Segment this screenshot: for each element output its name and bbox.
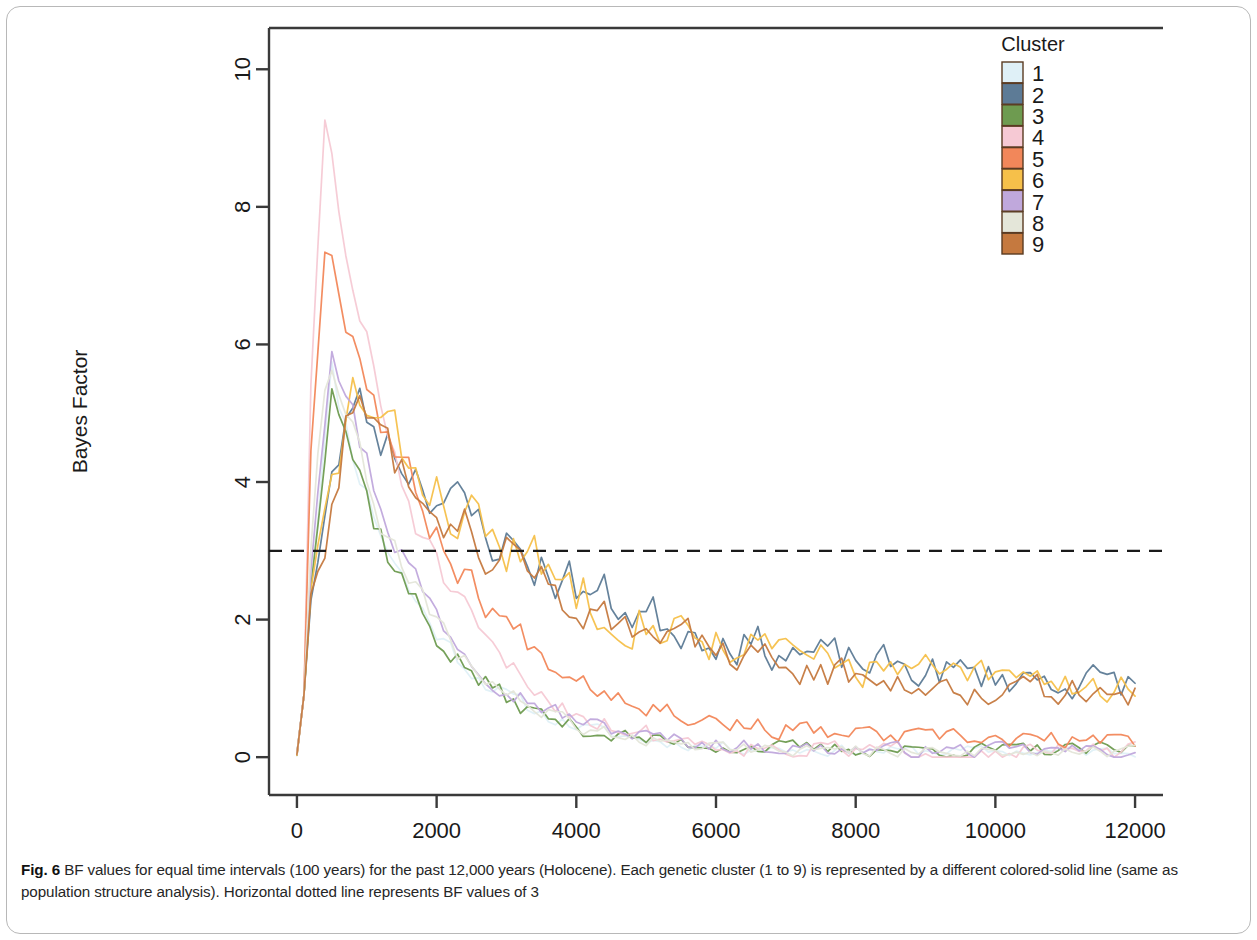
legend-swatch-cluster-1: [1002, 62, 1023, 83]
figure-caption-text: BF values for equal time intervals (100 …: [21, 861, 1178, 900]
y-axis: 0246810: [231, 57, 270, 763]
legend-title: Cluster: [1001, 33, 1065, 55]
legend-swatch-cluster-5: [1002, 148, 1023, 169]
caption-divider: [7, 929, 1252, 930]
y-tick-label: 8: [231, 201, 256, 213]
chart-legend: Cluster123456789: [1001, 33, 1065, 257]
series-line-cluster-6: [297, 378, 1135, 756]
series-line-cluster-1: [297, 362, 1135, 757]
y-tick-label: 2: [231, 613, 256, 625]
y-tick-label: 0: [231, 751, 256, 763]
legend-swatch-cluster-3: [1002, 105, 1023, 126]
legend-swatch-cluster-4: [1002, 126, 1023, 147]
x-tick-label: 6000: [692, 818, 741, 843]
figure-plot-area: 0246810 020004000600080001000012000 Baye…: [7, 7, 1252, 852]
y-tick-label: 4: [231, 476, 256, 488]
series-line-cluster-7: [297, 352, 1135, 758]
y-tick-label: 6: [231, 338, 256, 350]
legend-swatch-cluster-7: [1002, 190, 1023, 211]
legend-swatch-cluster-9: [1002, 233, 1023, 254]
series-line-cluster-2: [297, 388, 1135, 755]
figure-card: 0246810 020004000600080001000012000 Baye…: [6, 6, 1251, 934]
bayes-factor-line-chart: 0246810 020004000600080001000012000 Baye…: [7, 7, 1252, 852]
figure-number: Fig. 6: [21, 861, 60, 878]
legend-label-cluster-9: 9: [1032, 232, 1044, 257]
x-tick-label: 12000: [1104, 818, 1165, 843]
legend-swatch-cluster-2: [1002, 83, 1023, 104]
x-tick-label: 4000: [552, 818, 601, 843]
x-tick-label: 2000: [412, 818, 461, 843]
figure-caption: Fig. 6 BF values for equal time interval…: [21, 859, 1233, 903]
y-tick-label: 10: [231, 57, 256, 81]
x-axis: 020004000600080001000012000: [291, 795, 1166, 843]
legend-swatch-cluster-8: [1002, 212, 1023, 233]
legend-swatch-cluster-6: [1002, 169, 1023, 190]
x-tick-label: 10000: [965, 818, 1026, 843]
series-line-cluster-9: [297, 396, 1135, 755]
y-axis-title: Bayes Factor: [68, 350, 91, 474]
x-tick-label: 0: [291, 818, 303, 843]
series-line-cluster-8: [297, 370, 1135, 756]
series-line-cluster-3: [297, 389, 1135, 757]
x-tick-label: 8000: [831, 818, 880, 843]
